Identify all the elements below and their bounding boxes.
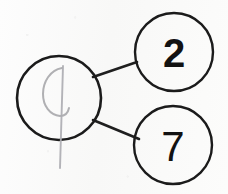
- number-bond-worksheet: 2 7: [0, 0, 228, 194]
- pencil-loop-stroke: [43, 68, 69, 116]
- number-bond-diagram: 2 7: [0, 0, 228, 194]
- part-bottom-value: 7: [161, 123, 184, 170]
- whole-handwritten-mark: [43, 66, 69, 168]
- part-top-value: 2: [163, 31, 185, 75]
- pencil-vertical-stroke: [60, 66, 63, 168]
- link-whole-to-top: [93, 62, 137, 77]
- link-whole-to-bottom: [93, 120, 139, 139]
